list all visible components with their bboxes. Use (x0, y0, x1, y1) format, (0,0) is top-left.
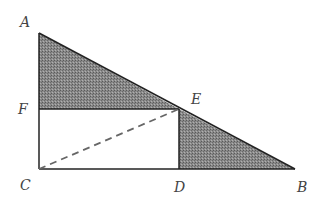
label-a: A (18, 14, 30, 30)
label-d: D (173, 179, 185, 195)
label-b: B (296, 179, 307, 195)
dashed-segment-ce (39, 109, 179, 169)
label-f: F (17, 101, 29, 117)
label-e: E (190, 91, 201, 107)
geometry-diagram: A F C D B E (0, 0, 328, 212)
label-c: C (20, 177, 31, 193)
